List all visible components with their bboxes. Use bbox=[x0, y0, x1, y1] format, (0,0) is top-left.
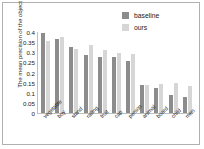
y-tick-label: 0.05 bbox=[23, 99, 35, 106]
bar-ours bbox=[74, 49, 78, 113]
chart-legend: baselineours bbox=[122, 12, 159, 36]
bar-ours bbox=[117, 53, 121, 113]
y-tick-label: 0.4 bbox=[26, 29, 35, 36]
legend-label: baseline bbox=[134, 12, 159, 19]
bar-group bbox=[84, 32, 98, 113]
bar-baseline bbox=[84, 55, 88, 113]
legend-label: ours bbox=[134, 24, 147, 31]
y-tick-label: 0.15 bbox=[23, 79, 35, 86]
legend-swatch-icon bbox=[122, 24, 129, 31]
bar-baseline bbox=[98, 57, 102, 113]
y-axis-title: The mean precision of the object bbox=[16, 0, 23, 97]
y-tick-label: 0.1 bbox=[26, 89, 35, 96]
bar-group bbox=[41, 32, 55, 113]
bar-baseline bbox=[112, 57, 116, 113]
bar-ours bbox=[46, 41, 50, 113]
legend-swatch-icon bbox=[122, 12, 129, 19]
bar-ours bbox=[103, 50, 107, 113]
bar-baseline bbox=[183, 97, 187, 113]
bar-group bbox=[98, 32, 112, 113]
bar-group bbox=[140, 32, 154, 113]
legend-item: ours bbox=[122, 24, 159, 31]
y-tick-label: 0.2 bbox=[26, 69, 35, 76]
bar-ours bbox=[131, 54, 135, 113]
bar-baseline bbox=[169, 95, 173, 113]
y-tick-label: 0.35 bbox=[23, 39, 35, 46]
bar-group bbox=[183, 32, 197, 113]
y-tick-label: 0.3 bbox=[26, 49, 35, 56]
bar-group bbox=[69, 32, 83, 113]
bar-baseline bbox=[126, 61, 130, 113]
legend-item: baseline bbox=[122, 12, 159, 19]
bar-baseline bbox=[41, 33, 45, 113]
chart-frame: The mean precision of the object 0.40.35… bbox=[2, 2, 200, 145]
y-tick-label: 0.25 bbox=[23, 59, 35, 66]
bar-group bbox=[126, 32, 140, 113]
y-tick-label: 0 bbox=[32, 110, 35, 117]
bar-group bbox=[154, 32, 168, 113]
bar-group bbox=[112, 32, 126, 113]
plot-area: 0.40.350.30.250.20.150.10.050 vegetableb… bbox=[37, 32, 193, 113]
bar-baseline bbox=[69, 47, 73, 113]
bar-ours bbox=[89, 45, 93, 113]
bar-group bbox=[169, 32, 183, 113]
